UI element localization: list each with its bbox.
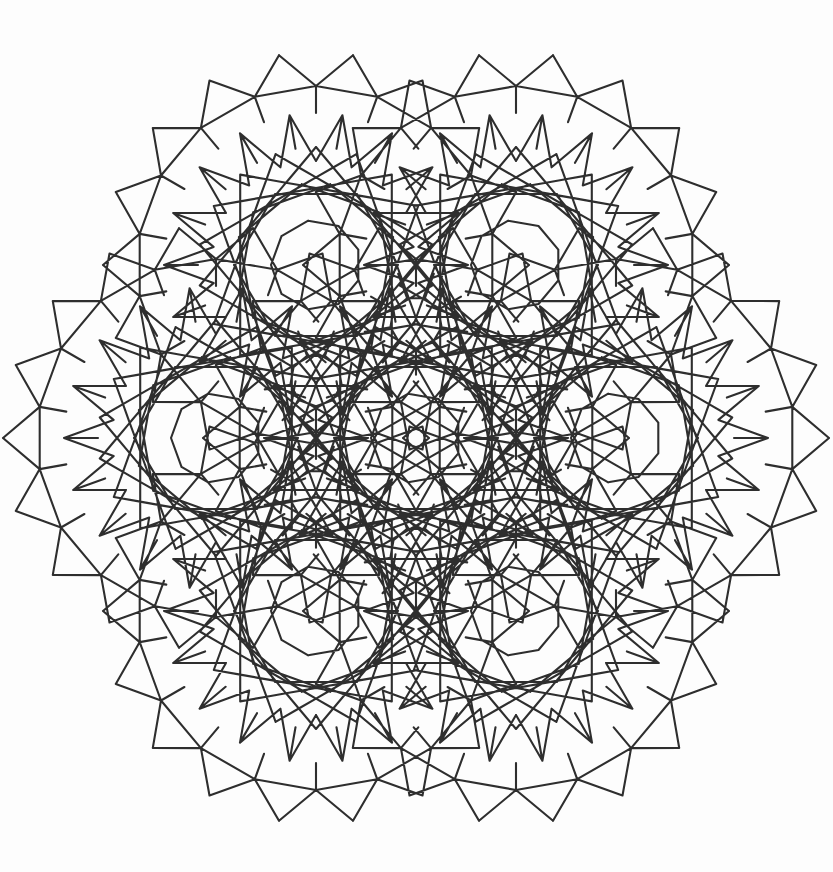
islamic-pattern-drawing — [0, 0, 833, 872]
figure-root — [0, 0, 833, 872]
paper-background — [0, 0, 833, 872]
